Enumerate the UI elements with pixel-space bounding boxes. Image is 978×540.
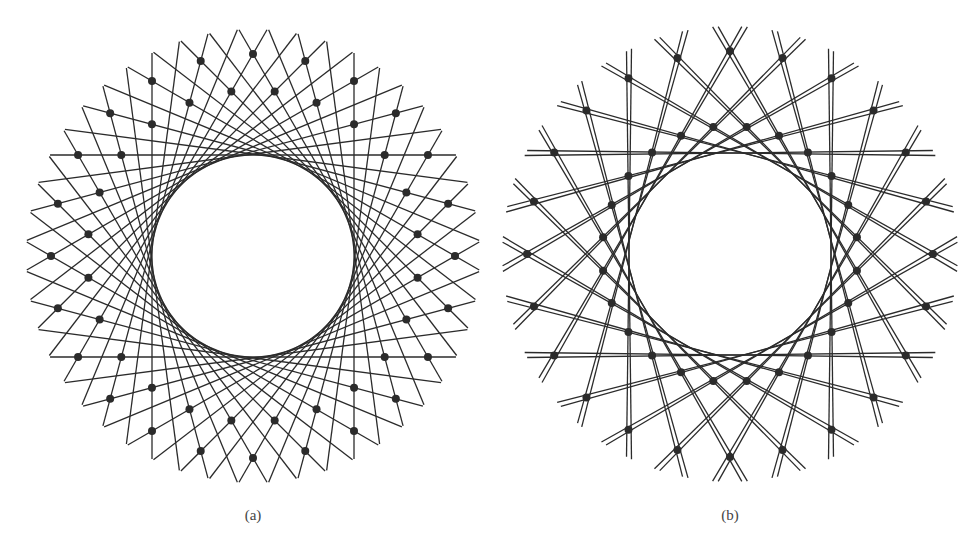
tangent-line bbox=[83, 301, 475, 406]
tangent-line bbox=[31, 301, 423, 406]
outer-node bbox=[828, 74, 836, 82]
outer-node bbox=[392, 109, 400, 117]
outer-node bbox=[106, 109, 114, 117]
inner-node bbox=[853, 267, 861, 275]
outer-node bbox=[424, 353, 432, 361]
inner-node bbox=[117, 353, 125, 361]
outer-node bbox=[922, 303, 930, 311]
inner-node bbox=[677, 132, 685, 140]
tangent-line bbox=[327, 68, 380, 470]
outer-node bbox=[779, 54, 787, 62]
outer-node bbox=[582, 106, 590, 114]
outer-node bbox=[54, 200, 62, 208]
outer-node bbox=[625, 74, 633, 82]
inner-node bbox=[648, 148, 656, 156]
tangent-line bbox=[103, 34, 208, 426]
inner-node bbox=[828, 172, 836, 180]
figure-b: (b) bbox=[489, 0, 978, 540]
inner-node bbox=[185, 99, 193, 107]
outer-node bbox=[673, 54, 681, 62]
inner-node bbox=[84, 274, 92, 282]
tangent-line bbox=[83, 106, 475, 211]
outer-node bbox=[350, 77, 358, 85]
inner-node bbox=[599, 233, 607, 241]
tangent-line bbox=[39, 129, 441, 182]
inner-node bbox=[804, 352, 812, 360]
inner-node bbox=[624, 328, 632, 336]
outer-node bbox=[47, 252, 55, 260]
tangent-line bbox=[539, 130, 747, 481]
tangent-line bbox=[126, 68, 179, 470]
inner-node bbox=[709, 123, 717, 131]
tangent-lines bbox=[503, 27, 958, 482]
outer-node bbox=[922, 197, 930, 205]
tangent-line bbox=[153, 213, 475, 460]
inner-node bbox=[227, 87, 235, 95]
outer-node bbox=[350, 427, 358, 435]
outer-node bbox=[444, 304, 452, 312]
tangent-line bbox=[49, 156, 296, 478]
outer-node bbox=[106, 395, 114, 403]
tangent-line bbox=[654, 39, 946, 324]
inner-node bbox=[709, 377, 717, 385]
inner-node bbox=[608, 299, 616, 307]
inner-node bbox=[414, 274, 422, 282]
tangent-line bbox=[578, 85, 688, 478]
outer-node bbox=[74, 353, 82, 361]
outer-node bbox=[870, 394, 878, 402]
tangent-line bbox=[507, 301, 903, 402]
tangent-line bbox=[38, 41, 325, 328]
intersection-nodes bbox=[47, 50, 459, 462]
outer-node bbox=[550, 149, 558, 157]
inner-node bbox=[84, 230, 92, 238]
outer-node bbox=[726, 47, 734, 55]
tangent-line bbox=[506, 102, 899, 212]
tangent-line bbox=[561, 296, 954, 406]
inner-node bbox=[381, 353, 389, 361]
tangent-lines bbox=[27, 30, 480, 483]
inner-node bbox=[185, 405, 193, 413]
outer-node bbox=[451, 252, 459, 260]
inner-node bbox=[381, 151, 389, 159]
tangent-line bbox=[503, 242, 859, 442]
outer-node bbox=[828, 426, 836, 434]
tangent-line bbox=[298, 86, 403, 478]
tangent-line bbox=[38, 184, 325, 471]
outer-node bbox=[929, 250, 937, 258]
tangent-line bbox=[718, 125, 918, 481]
figure-a: (a) bbox=[0, 0, 489, 540]
inner-node bbox=[775, 132, 783, 140]
outer-node bbox=[582, 394, 590, 402]
inner-node bbox=[775, 368, 783, 376]
tangent-line bbox=[503, 63, 854, 271]
tangent-line bbox=[181, 41, 468, 328]
inner-node bbox=[313, 405, 321, 413]
outer-node bbox=[870, 106, 878, 114]
figure-caption-a: (a) bbox=[223, 507, 283, 524]
inner-node bbox=[402, 188, 410, 196]
outer-node bbox=[530, 303, 538, 311]
inner-node bbox=[677, 368, 685, 376]
outer-node bbox=[301, 57, 309, 65]
tangent-line bbox=[513, 184, 805, 469]
tangent-line bbox=[210, 156, 457, 478]
tangent-line bbox=[777, 81, 878, 477]
tangent-line bbox=[103, 86, 208, 478]
tangent-circle-diagram-a bbox=[0, 0, 489, 540]
tangent-line bbox=[660, 178, 945, 470]
tangent-line bbox=[153, 52, 475, 299]
tangent-line bbox=[327, 42, 380, 444]
outer-node bbox=[392, 395, 400, 403]
inner-node bbox=[853, 233, 861, 241]
outer-node bbox=[673, 446, 681, 454]
outer-node bbox=[779, 446, 787, 454]
inner-node bbox=[96, 316, 104, 324]
inner-node bbox=[608, 201, 616, 209]
outer-node bbox=[424, 151, 432, 159]
tangent-line bbox=[557, 106, 953, 207]
inner-node bbox=[743, 377, 751, 385]
tangent-line bbox=[39, 330, 441, 383]
inner-node bbox=[743, 123, 751, 131]
inner-node bbox=[227, 417, 235, 425]
inner-node bbox=[804, 148, 812, 156]
